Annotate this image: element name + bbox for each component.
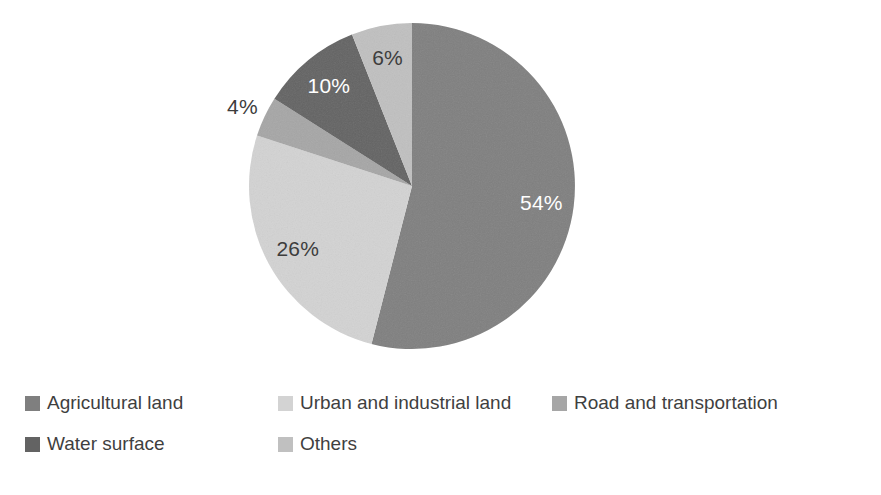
pie-value-label-others: 6% (372, 46, 403, 69)
legend-item-agricultural-land: Agricultural land (25, 392, 183, 414)
pie-chart: 54%26%4%10%6% (0, 0, 881, 380)
legend-swatch-water-surface-icon (25, 437, 40, 452)
legend-item-urban-and-industrial-land: Urban and industrial land (278, 392, 511, 414)
pie-value-label-agricultural-land: 54% (520, 191, 563, 214)
pie-chart-figure: 54%26%4%10%6% Agricultural land Urban an… (0, 0, 881, 495)
legend-item-water-surface: Water surface (25, 433, 165, 455)
legend-label: Road and transportation (574, 392, 778, 414)
legend-swatch-others-icon (278, 437, 293, 452)
legend-label: Agricultural land (47, 392, 183, 414)
legend-item-others: Others (278, 433, 357, 455)
legend-label: Water surface (47, 433, 165, 455)
legend-swatch-road-and-transportation-icon (552, 396, 567, 411)
legend-label: Others (300, 433, 357, 455)
pie-value-label-water-surface: 10% (308, 74, 351, 97)
legend-item-road-and-transportation: Road and transportation (552, 392, 778, 414)
legend-swatch-agricultural-land-icon (25, 396, 40, 411)
scan-grain-overlay (249, 23, 575, 349)
legend-swatch-urban-and-industrial-land-icon (278, 396, 293, 411)
legend-label: Urban and industrial land (300, 392, 511, 414)
pie-value-label-road-and-transportation: 4% (227, 95, 258, 118)
pie-value-label-urban-and-industrial-land: 26% (276, 237, 319, 260)
